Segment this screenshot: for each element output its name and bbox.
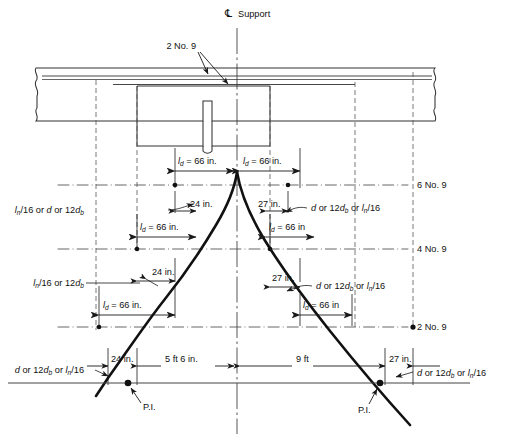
pi-point-right [377, 380, 384, 387]
pi-label-right: P.I. [358, 405, 371, 415]
beam-bar-cutoff-figure: ℄ Support 2 No. 9 [0, 0, 516, 434]
label-2-no-9: 2 No. 9 [417, 322, 447, 332]
bar-dot-2-right [410, 324, 415, 329]
bar-dot-6-right [286, 183, 291, 188]
dim-label-27in-lower: 27 in. [272, 273, 294, 283]
dim-label-27in-upper: 27 in. [258, 199, 280, 209]
bar-dot-6-left [173, 183, 178, 188]
dim-label-ld-top-right: ld = 66 in. [243, 156, 282, 167]
dim-label-ld-mid-right: ld = 66 in [269, 222, 305, 233]
diagram-canvas: ℄ Support 2 No. 9 [0, 0, 516, 434]
pi-point-left [125, 380, 132, 387]
bar-dot-2-left [97, 325, 102, 330]
dim-label-ld-top-left: ld = 66 in. [178, 156, 217, 167]
dim-label-24in-lower: 24 in. [152, 267, 174, 277]
pi-label-left: P.I. [143, 402, 156, 412]
dim-label-span-left: 5 ft 6 in. [165, 354, 198, 364]
dim-label-27in-base: 27 in. [389, 354, 411, 364]
criteria-upper-left-label: ln/16 or d or 12db [15, 205, 85, 216]
centerline-support-label: Support [238, 9, 271, 19]
label-4-no-9: 4 No. 9 [417, 244, 447, 254]
dim-label-ld-low-left: ld = 66 in. [103, 300, 142, 311]
bar-dot-4-left [135, 247, 140, 252]
criteria-lower-left-label: ln/16 or 12db [33, 278, 84, 289]
label-6-no-9: 6 No. 9 [417, 180, 447, 190]
dim-label-24in-upper: 24 in. [190, 199, 212, 209]
dim-label-ld-low-right: ld = 66 in [303, 300, 339, 311]
dim-label-span-right: 9 ft [296, 354, 309, 364]
dim-label-ld-mid-left: ld = 66 in. [140, 222, 179, 233]
centerline-symbol: ℄ [224, 7, 232, 19]
dim-label-24in-base: 24 in. [111, 354, 133, 364]
top-bars-callout-label: 2 No. 9 [166, 41, 196, 51]
